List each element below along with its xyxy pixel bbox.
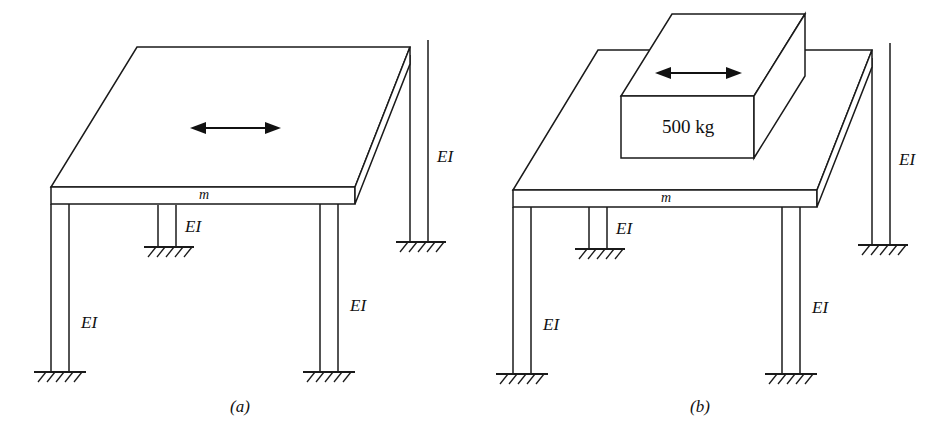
panel-a-label-ei-back-middle: EI [184,217,202,236]
panel-a-label-ei-front-left: EI [80,313,98,332]
engineering-diagram: m EI EI EI EI (a) [0,0,940,432]
panel-a-deck-top [51,47,410,187]
hatch-group [769,374,813,384]
panel-b-deck-mass-label: m [661,190,671,205]
panel-a-label-ei-back-right: EI [436,147,454,166]
panel-b-leg-front-right [765,207,817,384]
panel-a-label-ei-front-right: EI [349,296,367,315]
panel-a-leg-front-left [34,204,86,382]
panel-a-caption: (a) [230,397,250,416]
panel-b-label-ei-back-middle: EI [615,219,633,238]
figure-container: m EI EI EI EI (a) [0,0,940,432]
hatch-group [307,372,351,382]
panel-b-leg-front-left [496,207,548,384]
hatch-group [862,245,906,255]
hatch-group [579,249,623,259]
panel-a-leg-front-right [303,204,355,382]
hatch-group [148,247,192,257]
panel-a: m EI EI EI EI (a) [34,40,454,416]
panel-b-label-ei-front-left: EI [542,315,560,334]
panel-b-block-mass-label: 500 kg [662,116,715,137]
hatch-group [400,242,444,252]
panel-b-label-ei-front-right: EI [811,298,829,317]
panel-b-caption: (b) [690,397,710,416]
panel-b: 500 kg m EI EI EI EI (b) [496,14,916,416]
hatch-group [38,372,82,382]
panel-b-label-ei-back-right: EI [898,150,916,169]
hatch-group [500,374,544,384]
panel-a-deck-mass-label: m [199,187,209,202]
